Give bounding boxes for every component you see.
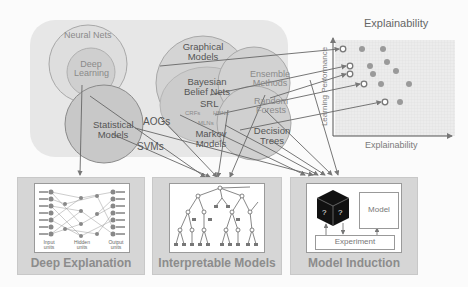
srl-label: SRL xyxy=(200,99,218,109)
deep-explanation-box: Input units Hidden units Output units De… xyxy=(17,177,145,275)
neural-nets-label: Neural Nets xyxy=(64,31,112,40)
svg-text:?: ? xyxy=(322,208,327,217)
plot-y-label: Learning Performance xyxy=(320,43,329,131)
model-induction-figure: ? ? Model Experiment xyxy=(306,183,402,253)
model-box: Model xyxy=(359,192,399,229)
hbns-label: HBNs xyxy=(213,110,229,116)
ensemble-methods-label: Ensemble Methods xyxy=(249,70,291,89)
input-units-label: Input units xyxy=(39,240,59,251)
interpretable-models-title: Interpretable Models xyxy=(153,256,281,270)
graphical-models-label: Graphical Models xyxy=(180,42,226,62)
bayesian-belief-nets-label: Bayesian Belief Nets xyxy=(184,77,230,97)
neural-network-figure: Input units Hidden units Output units xyxy=(34,183,130,253)
markov-models-label: Markov Models xyxy=(193,129,229,149)
hidden-units-label: Hidden units xyxy=(71,240,93,251)
model-label: Model xyxy=(360,206,398,214)
interpretable-models-box: Interpretable Models xyxy=(152,177,282,275)
svms-label: SVMs xyxy=(137,142,164,153)
statistical-models-label: Statistical Models xyxy=(93,120,133,140)
and-or-graph-icon xyxy=(170,184,264,252)
decision-trees-label: Decision Trees xyxy=(252,126,292,146)
deep-learning-label: Deep Learning xyxy=(74,60,108,79)
model-induction-box: ? ? Model Experiment Model Induction xyxy=(290,177,418,275)
deep-explanation-title: Deep Explanation xyxy=(18,256,144,270)
model-induction-title: Model Induction xyxy=(291,256,417,270)
random-forests-label: Random Forests xyxy=(251,97,291,116)
output-units-label: Output units xyxy=(105,240,127,251)
plot-area xyxy=(335,40,455,136)
svg-text:?: ? xyxy=(338,208,343,217)
xai-diagram: Neural Nets Deep Learning Graphical Mode… xyxy=(0,0,468,287)
experiment-box: Experiment xyxy=(315,235,395,250)
experiment-label: Experiment xyxy=(316,238,394,246)
aogs-label: AOGs xyxy=(143,117,170,128)
mlns-label: MLNs xyxy=(198,120,214,126)
plot-title: Explainability xyxy=(364,17,428,29)
plot-x-label: Explainability xyxy=(365,140,418,150)
crfs-label: CRFs xyxy=(185,110,200,116)
tree-figure xyxy=(169,183,265,253)
